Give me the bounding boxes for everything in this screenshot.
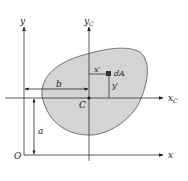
label-x: x [168, 150, 173, 160]
label-a: a [38, 126, 43, 136]
label-xc: xC [168, 93, 178, 104]
label-centroid: C [79, 100, 86, 110]
label-dA: dA [114, 69, 125, 78]
label-yc: yC [83, 16, 94, 27]
area-region [42, 48, 148, 135]
centroid-point [87, 96, 90, 99]
label-origin: O [14, 151, 22, 161]
label-y: y [19, 16, 26, 26]
parallel-axis-diagram: y yC xC x O C dA x′ y′ b a [0, 0, 188, 181]
label-x-prime: x′ [94, 65, 101, 74]
label-b: b [56, 79, 62, 89]
label-y-prime: y′ [111, 81, 119, 90]
area-element-dA [106, 71, 111, 76]
